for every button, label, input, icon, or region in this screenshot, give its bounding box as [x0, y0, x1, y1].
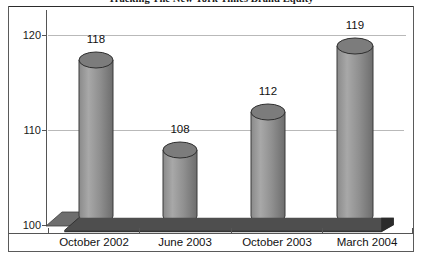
y-tick-label-100: 100 — [23, 219, 41, 231]
bar-value-label-june-2003: 108 — [170, 123, 189, 135]
chart-container: Tracking The New York Times Brand Equity… — [0, 0, 422, 256]
plot-area: 120 110 100 — [46, 10, 414, 226]
bar-value-label-march-2004: 119 — [346, 19, 364, 31]
frame-top-divider — [8, 6, 414, 7]
y-tick-label-120: 120 — [23, 29, 41, 41]
y-tick-label-110: 110 — [23, 124, 41, 136]
x-tick-mark-0 — [48, 228, 49, 234]
bar-june-2003[interactable]: 108 — [162, 141, 198, 225]
x-axis-label-october-2003: October 2003 — [242, 236, 312, 248]
x-axis-line — [8, 233, 414, 234]
chart-title: Tracking The New York Times Brand Equity — [0, 0, 422, 4]
x-tick-mark-3 — [322, 228, 323, 234]
x-axis-label-march-2004: March 2004 — [337, 236, 398, 248]
y-axis-line — [46, 10, 47, 226]
x-tick-mark-4 — [412, 228, 413, 234]
bar-march-2004[interactable]: 119 — [336, 37, 374, 225]
chart-floor-3d — [46, 216, 414, 234]
bar-october-2002[interactable]: 118 — [78, 51, 114, 225]
x-tick-mark-1 — [139, 228, 140, 234]
bar-october-2003[interactable]: 112 — [250, 103, 286, 225]
frame-bottom-border — [8, 251, 414, 252]
y-tick-mark-120 — [42, 35, 47, 36]
x-axis-label-october-2002: October 2002 — [59, 236, 129, 248]
bar-value-label-october-2003: 112 — [259, 85, 277, 97]
y-tick-mark-110 — [42, 130, 47, 131]
bar-value-label-october-2002: 118 — [87, 33, 105, 45]
x-tick-mark-2 — [231, 228, 232, 234]
x-axis-label-june-2003: June 2003 — [158, 236, 212, 248]
frame-left-border — [8, 6, 9, 252]
